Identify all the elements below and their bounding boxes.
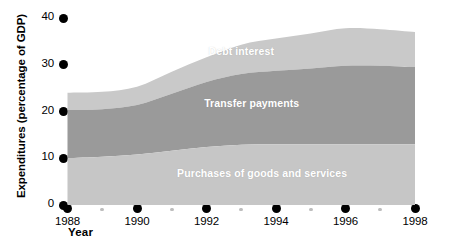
y-tick-label: 0 — [30, 197, 54, 209]
x-tick-minor-dot — [309, 208, 313, 212]
y-tick-dot — [59, 107, 68, 116]
x-tick-label: 1994 — [254, 215, 298, 227]
y-tick-label: 40 — [30, 10, 54, 22]
series-label-debt-interest: Debt interest — [209, 45, 274, 57]
x-tick-minor-dot — [239, 208, 243, 212]
y-tick-dot — [59, 14, 68, 23]
y-tick-dot — [59, 60, 68, 69]
x-tick-label: 1998 — [393, 215, 437, 227]
x-tick-dot — [272, 204, 281, 213]
stacked-area-chart-figure: Expenditures (percentage of GDP) Year 40… — [0, 0, 462, 246]
x-tick-dot — [411, 204, 420, 213]
x-axis-title: Year — [68, 226, 93, 238]
x-tick-dot — [133, 204, 142, 213]
y-axis-title: Expenditures (percentage of GDP) — [15, 1, 27, 211]
y-tick-dot — [59, 154, 68, 163]
series-label-purchases: Purchases of goods and services — [177, 167, 347, 179]
x-tick-minor-dot — [378, 208, 382, 212]
y-tick-label: 30 — [30, 57, 54, 69]
area-band-transfer-payments — [68, 65, 416, 158]
x-tick-label: 1990 — [115, 215, 159, 227]
x-tick-minor-dot — [100, 208, 104, 212]
x-tick-dot — [341, 204, 350, 213]
x-tick-dot — [202, 204, 211, 213]
series-label-transfer-payments: Transfer payments — [204, 97, 299, 109]
x-tick-minor-dot — [170, 208, 174, 212]
x-tick-label: 1988 — [46, 215, 90, 227]
x-tick-label: 1996 — [324, 215, 368, 227]
x-tick-label: 1992 — [185, 215, 229, 227]
y-tick-label: 20 — [30, 104, 54, 116]
y-tick-label: 10 — [30, 150, 54, 162]
x-tick-dot — [63, 204, 72, 213]
